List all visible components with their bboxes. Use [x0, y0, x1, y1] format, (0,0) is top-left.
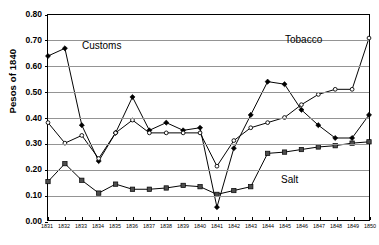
data-point-circle: [333, 87, 337, 91]
data-point-square: [147, 187, 151, 191]
series-customs: [45, 46, 371, 210]
y-axis-tick-labels: 0.000.100.200.300.400.500.600.700.80: [8, 0, 42, 245]
data-point-circle: [232, 139, 236, 143]
x-axis-tick-labels: 1831183218331834183518361837183818391840…: [47, 224, 370, 238]
data-point-circle: [97, 157, 101, 161]
data-point-diamond: [197, 125, 202, 130]
data-point-square: [80, 178, 84, 182]
x-tick-mark: [286, 217, 287, 220]
y-tick-label: 0.30: [8, 139, 42, 148]
data-point-circle: [181, 131, 185, 135]
data-point-diamond: [45, 53, 50, 58]
data-point-diamond: [282, 82, 287, 87]
gridline: [48, 170, 369, 171]
y-tick-mark: [45, 15, 48, 16]
x-tick-mark: [337, 217, 338, 220]
y-tick-label: 0.80: [8, 10, 42, 19]
data-point-circle: [198, 131, 202, 135]
series-label-tobacco: Tobacco: [285, 35, 322, 45]
y-tick-label: 0.50: [8, 88, 42, 97]
data-point-square: [113, 182, 117, 186]
y-tick-mark: [45, 92, 48, 93]
x-tick-mark: [116, 217, 117, 220]
data-point-diamond: [214, 205, 219, 210]
data-point-square: [299, 147, 303, 151]
gridline: [48, 92, 369, 93]
data-point-diamond: [248, 112, 253, 117]
x-tick-mark: [252, 217, 253, 220]
x-tick-mark: [269, 217, 270, 220]
y-tick-mark: [45, 118, 48, 119]
y-tick-mark: [45, 196, 48, 197]
data-point-square: [96, 191, 100, 195]
x-tick-mark: [320, 217, 321, 220]
data-point-square: [46, 179, 50, 183]
gridline: [48, 118, 369, 119]
x-tick-mark: [167, 217, 168, 220]
x-tick-mark: [82, 217, 83, 220]
x-tick-mark: [235, 217, 236, 220]
data-point-circle: [367, 36, 371, 40]
x-tick-mark: [370, 217, 371, 220]
line-chart: Pesos of 1840 0.000.100.200.300.400.500.…: [0, 0, 379, 245]
data-point-square: [232, 188, 236, 192]
y-tick-label: 0.40: [8, 114, 42, 123]
x-tick-mark: [65, 217, 66, 220]
data-point-square: [63, 161, 67, 165]
y-tick-mark: [45, 40, 48, 41]
gridline: [48, 196, 369, 197]
y-tick-label: 0.20: [8, 165, 42, 174]
x-tick-mark: [133, 217, 134, 220]
data-point-circle: [215, 164, 219, 168]
x-tick-mark: [303, 217, 304, 220]
data-point-square: [198, 185, 202, 189]
y-tick-label: 0.10: [8, 191, 42, 200]
data-point-circle: [147, 131, 151, 135]
data-point-square: [164, 186, 168, 190]
data-point-circle: [114, 131, 118, 135]
x-tick-mark: [218, 217, 219, 220]
data-point-square: [130, 187, 134, 191]
series-label-customs: Customs: [82, 41, 121, 51]
data-point-square: [265, 151, 269, 155]
data-point-square: [316, 145, 320, 149]
y-tick-mark: [45, 170, 48, 171]
data-point-diamond: [62, 46, 67, 51]
x-tick-label: 1850: [359, 224, 379, 229]
data-point-square: [282, 150, 286, 154]
data-point-circle: [350, 87, 354, 91]
x-tick-mark: [150, 217, 151, 220]
series-tobacco: [46, 36, 371, 168]
data-point-diamond: [79, 123, 84, 128]
x-tick-mark: [99, 217, 100, 220]
data-point-diamond: [231, 146, 236, 151]
data-point-square: [181, 183, 185, 187]
gridline: [48, 144, 369, 145]
y-tick-mark: [45, 144, 48, 145]
y-tick-label: 0.60: [8, 62, 42, 71]
y-tick-mark: [45, 66, 48, 67]
x-tick-mark: [48, 217, 49, 220]
data-point-circle: [80, 134, 84, 138]
x-tick-mark: [354, 217, 355, 220]
x-tick-mark: [184, 217, 185, 220]
data-point-circle: [249, 126, 253, 130]
data-point-circle: [300, 103, 304, 107]
x-tick-mark: [201, 217, 202, 220]
data-point-circle: [164, 131, 168, 135]
data-point-diamond: [265, 79, 270, 84]
data-point-square: [249, 185, 253, 189]
series-label-salt: Salt: [281, 175, 298, 185]
data-point-diamond: [130, 94, 135, 99]
gridline: [48, 66, 369, 67]
data-point-circle: [266, 121, 270, 125]
data-point-diamond: [164, 120, 169, 125]
data-point-circle: [46, 121, 50, 125]
y-tick-label: 0.70: [8, 36, 42, 45]
